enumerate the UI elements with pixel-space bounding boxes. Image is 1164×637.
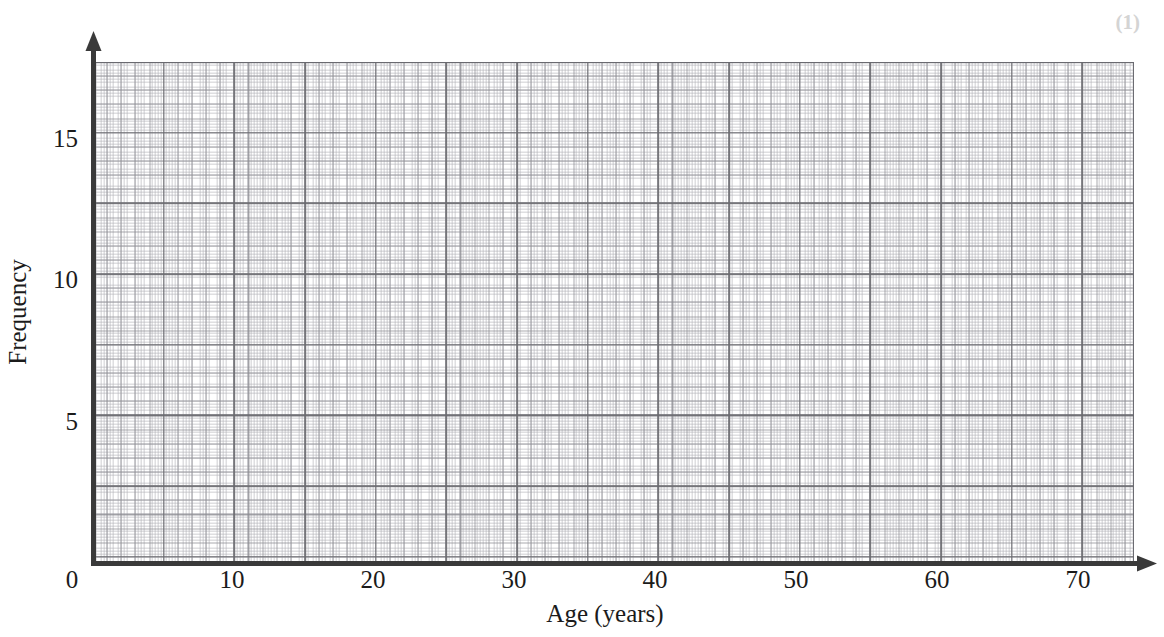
graph-question-page: (1) 0 10 20 30 40 50 60 70 5 10 15 Age (…: [0, 0, 1164, 637]
x-axis-arrowhead: [1137, 556, 1157, 572]
marks-allocation: (1): [1116, 10, 1141, 35]
y-axis-arrowhead: [86, 31, 102, 51]
x-tick-label-0: 0: [66, 566, 79, 594]
y-tick-label-10: 10: [46, 266, 78, 294]
x-axis-title: Age (years): [546, 600, 663, 628]
x-tick-label-40: 40: [643, 566, 668, 594]
x-tick-label-30: 30: [502, 566, 527, 594]
graph-paper-grid[interactable]: [93, 62, 1134, 563]
y-axis-title: Frequency: [4, 259, 32, 365]
x-tick-label-60: 60: [925, 566, 950, 594]
y-tick-label-5: 5: [46, 408, 78, 436]
x-tick-label-70: 70: [1066, 566, 1091, 594]
x-tick-label-20: 20: [361, 566, 386, 594]
y-tick-label-15: 15: [46, 125, 78, 153]
x-tick-label-10: 10: [220, 566, 245, 594]
x-tick-label-50: 50: [784, 566, 809, 594]
